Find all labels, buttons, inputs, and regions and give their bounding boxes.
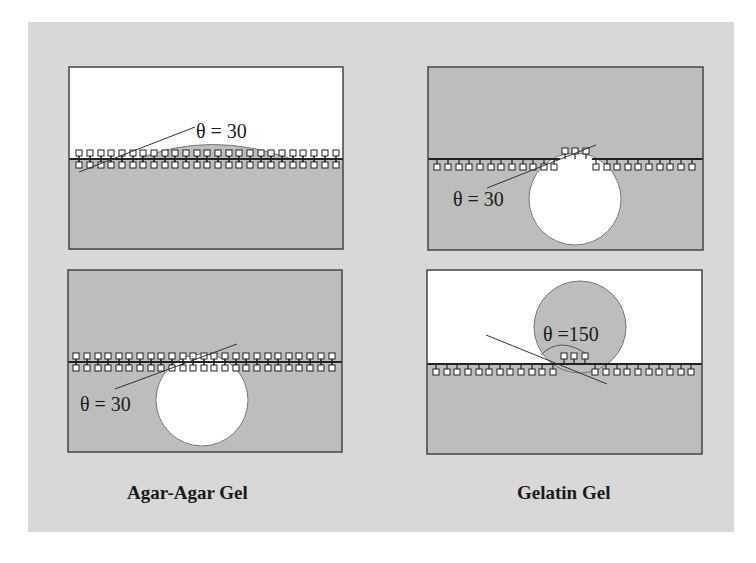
angle-label: θ = 30: [80, 393, 131, 415]
panel-gelatin-top: θ = 30: [428, 67, 703, 250]
label-agar-agar-gel: Agar-Agar Gel: [127, 482, 248, 504]
panel-agar-top: θ = 30: [69, 67, 343, 249]
panel-gelatin-bottom: θ =150: [427, 270, 702, 454]
angle-label: θ = 30: [196, 120, 247, 142]
label-gelatin-gel: Gelatin Gel: [517, 482, 610, 504]
diagram-canvas: θ = 30 θ = 30: [0, 0, 756, 563]
angle-label: θ = 30: [453, 188, 504, 210]
angle-label: θ =150: [543, 323, 599, 345]
panel-agar-bottom: θ = 30: [68, 270, 342, 452]
